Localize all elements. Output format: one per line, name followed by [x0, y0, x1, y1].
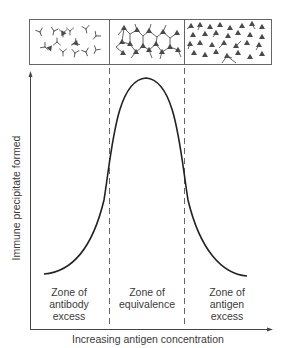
zone-1-line1: Zone of [51, 286, 87, 298]
zone-3-line1: Zone of [209, 286, 245, 298]
zone-3-line2: antigen [210, 298, 245, 310]
molecule-panels [30, 20, 272, 65]
precipitin-curve-figure: Immune precipitate formed Zone of antibo… [0, 0, 288, 348]
zone-3-line3: excess [211, 310, 244, 322]
x-axis-title: Increasing antigen concentration [72, 333, 224, 345]
y-axis-arrow-icon [29, 71, 33, 77]
zone-2-line2: equivalence [119, 298, 175, 310]
zone-1-line2: antibody [49, 298, 89, 310]
y-axis-title: Immune precipitate formed [10, 135, 22, 260]
zone-1-line3: excess [53, 310, 86, 322]
zone-2-line1: Zone of [129, 286, 165, 298]
zone-labels: Zone of antibody excess Zone of equivale… [49, 286, 245, 322]
precipitin-curve [44, 78, 247, 276]
x-axis-arrow-icon [267, 328, 273, 332]
